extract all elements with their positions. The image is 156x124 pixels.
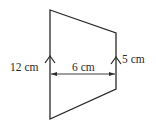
left-side-label: 12 cm	[10, 61, 38, 73]
height-label: 6 cm	[72, 61, 95, 73]
arrowhead-left-icon	[51, 72, 57, 76]
right-side-label: 5 cm	[122, 53, 145, 65]
arrowhead-right-icon	[109, 72, 115, 76]
trapezium-diagram: 12 cm 6 cm 5 cm	[0, 0, 156, 124]
